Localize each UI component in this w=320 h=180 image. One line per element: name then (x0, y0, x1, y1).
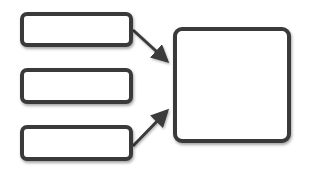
input-box-3 (20, 125, 133, 161)
arrow-3 (133, 111, 167, 146)
arrow-1 (133, 30, 167, 61)
output-box (173, 27, 291, 143)
input-box-2 (20, 68, 133, 104)
input-box-1 (20, 12, 133, 47)
